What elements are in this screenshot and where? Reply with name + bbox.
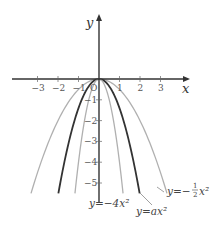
ticks: −3−2−1O123−1−2−3−4−5 xyxy=(32,76,165,188)
equation-minus4: y=−4x² xyxy=(88,197,129,209)
x-axis-label: x xyxy=(182,81,190,96)
y-tick-label: −4 xyxy=(84,157,98,167)
y-axis-label: y xyxy=(85,15,94,30)
x-tick-label: −3 xyxy=(32,83,46,93)
x-tick-label: −2 xyxy=(52,83,65,93)
x-tick-label: O xyxy=(90,83,97,93)
parabola-chart: −3−2−1O123−1−2−3−4−5 x y y=− 1 2 x² y=−4… xyxy=(0,0,223,229)
y-tick-label: −3 xyxy=(84,136,98,146)
x-tick-label: 2 xyxy=(138,83,144,93)
y-tick-label: −1 xyxy=(84,95,97,105)
equation-half: y=− xyxy=(166,185,191,197)
x-tick-label: 3 xyxy=(158,83,164,93)
y-tick-label: −2 xyxy=(84,116,97,126)
y-tick-label: −5 xyxy=(84,178,98,188)
equation-half-den: 2 xyxy=(193,191,197,199)
leader-line-half xyxy=(157,187,164,192)
leader-line-a xyxy=(140,193,152,205)
x-tick-label: −1 xyxy=(73,83,86,93)
equation-a: y=ax² xyxy=(135,205,167,217)
equation-half-num: 1 xyxy=(193,182,197,190)
equation-half-suffix: x² xyxy=(199,185,209,197)
y-axis-arrow-icon xyxy=(96,14,102,21)
x-tick-label: 1 xyxy=(117,83,123,93)
